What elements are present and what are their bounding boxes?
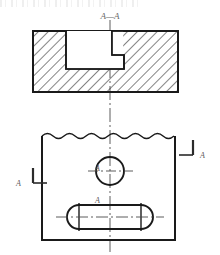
section-title: A—A [100, 11, 121, 21]
slot-upper-label: A [94, 196, 100, 205]
section-arrow-right-label: A [199, 151, 205, 160]
engineering-drawing: A—A A [0, 0, 220, 255]
section-arrow-left-label: A [15, 179, 21, 188]
plan-view [42, 134, 175, 241]
section-arrow-right: A [179, 140, 205, 160]
section-a-a [33, 31, 178, 92]
notch-pocket-fill [67, 32, 111, 68]
circle-center-label: A [94, 164, 100, 173]
wavy-break-line [42, 134, 174, 139]
plan-outline [42, 136, 175, 240]
notch-step-fill [112, 32, 123, 54]
